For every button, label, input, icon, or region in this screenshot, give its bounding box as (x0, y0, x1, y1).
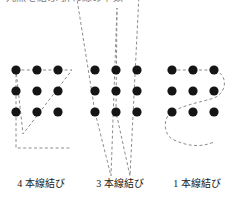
panel-one-line-label: 1 本線結び (158, 177, 236, 191)
connector-path-group (16, 70, 72, 148)
panel-one-line-canvas (158, 0, 236, 176)
grid-dot (188, 65, 197, 74)
grid-dot (209, 107, 218, 116)
grid-dot (167, 65, 176, 74)
grid-dot (111, 65, 120, 74)
grid-dot (111, 86, 120, 95)
grid-dot (90, 86, 99, 95)
grid-dot (90, 65, 99, 74)
grid-dot (11, 107, 20, 116)
grid-dot (188, 86, 197, 95)
dot-grid (167, 65, 218, 116)
panel-group: 4 本線結び (0, 0, 236, 202)
grid-dot (53, 107, 62, 116)
panel-three-lines-canvas (81, 0, 159, 176)
grid-dot (11, 86, 20, 95)
grid-dot (167, 107, 176, 116)
four-line-connector (16, 70, 72, 148)
grid-dot (188, 107, 197, 116)
panel-four-lines-canvas (2, 0, 80, 176)
connector-path-group (73, 0, 140, 176)
grid-dot (132, 65, 141, 74)
panel-four-lines: 4 本線結び (2, 0, 80, 202)
grid-dot (32, 86, 41, 95)
grid-dot (132, 107, 141, 116)
panel-three-lines-label: 3 本線結び (81, 177, 159, 191)
grid-dot (132, 86, 141, 95)
grid-dot (53, 86, 62, 95)
figure-root: 九点を結ぶ 折れ線の本数 (0, 0, 236, 202)
grid-dot (11, 65, 20, 74)
three-line-connector (73, 0, 140, 176)
panel-three-lines: 3 本線結び (81, 0, 159, 202)
grid-dot (111, 107, 120, 116)
grid-dot (167, 86, 176, 95)
grid-dot (90, 107, 99, 116)
panel-one-line: 1 本線結び (158, 0, 236, 202)
grid-dot (209, 65, 218, 74)
dot-grid (11, 65, 62, 116)
grid-dot (32, 65, 41, 74)
grid-dot (32, 107, 41, 116)
dot-grid (90, 65, 141, 116)
grid-dot (209, 86, 218, 95)
panel-four-lines-label: 4 本線結び (2, 177, 80, 191)
grid-dot (53, 65, 62, 74)
